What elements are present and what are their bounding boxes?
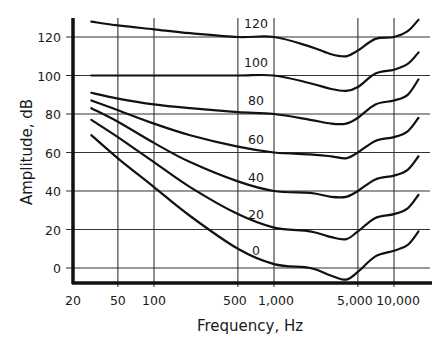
x-tick-label: 10,000 <box>376 293 420 308</box>
curve-label: 60 <box>248 132 264 147</box>
x-tick-label: 5,000 <box>337 293 373 308</box>
curve-label: 40 <box>248 170 264 185</box>
y-tick-label: 120 <box>37 30 61 45</box>
x-tick-label: 20 <box>65 293 81 308</box>
curve-label: 120 <box>244 16 268 31</box>
x-tick-label: 100 <box>142 293 166 308</box>
y-axis-title: Amplitude, dB <box>18 99 36 205</box>
chart-svg: 02040608010012020501005001,0005,00010,00… <box>0 0 444 345</box>
x-tick-label: 50 <box>110 293 126 308</box>
y-tick-label: 80 <box>45 107 61 122</box>
y-tick-label: 60 <box>45 146 61 161</box>
equal-loudness-chart: 02040608010012020501005001,0005,00010,00… <box>0 0 444 345</box>
curve-label: 100 <box>244 55 268 70</box>
x-axis-title: Frequency, Hz <box>197 317 303 335</box>
curve-label: 0 <box>252 243 260 258</box>
y-tick-label: 20 <box>45 223 61 238</box>
y-tick-label: 100 <box>37 69 61 84</box>
y-tick-label: 40 <box>45 184 61 199</box>
y-tick-label: 0 <box>53 261 61 276</box>
curve-label: 80 <box>248 93 264 108</box>
curve-label: 20 <box>248 207 264 222</box>
x-tick-label: 1,000 <box>258 293 294 308</box>
x-tick-label: 500 <box>223 293 247 308</box>
